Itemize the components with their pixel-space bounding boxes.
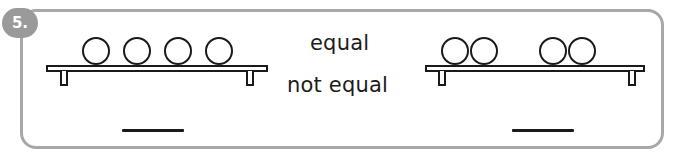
counter-circle: [441, 37, 469, 65]
option-equal[interactable]: equal: [310, 31, 369, 55]
counter-circle: [539, 37, 567, 65]
option-not-equal[interactable]: not equal: [287, 73, 388, 97]
answer-blank-line[interactable]: [122, 129, 184, 132]
counter-circle: [470, 37, 498, 65]
shelf-leg: [628, 71, 636, 86]
counter-circle: [164, 37, 192, 65]
shelf-surface: [425, 65, 645, 72]
counter-circle: [205, 37, 233, 65]
shelf-surface: [46, 65, 268, 72]
counter-circle: [123, 37, 151, 65]
counter-circle: [568, 37, 596, 65]
shelf-leg: [60, 71, 68, 86]
shelf-leg: [246, 71, 254, 86]
question-number-badge: 5.: [2, 8, 38, 38]
worksheet-question-page: 5. equal not equal: [0, 0, 678, 165]
answer-blank-line[interactable]: [512, 129, 574, 132]
left-group-shelf: [46, 65, 268, 87]
shelf-leg: [438, 71, 446, 86]
counter-circle: [82, 37, 110, 65]
right-group-shelf: [425, 65, 645, 87]
